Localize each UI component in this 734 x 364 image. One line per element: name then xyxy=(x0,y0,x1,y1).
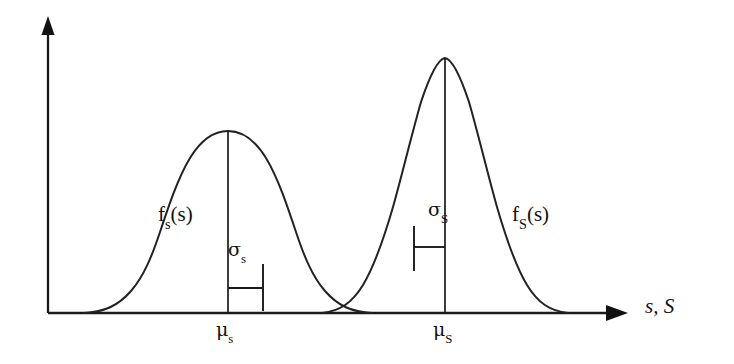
strength-curve-label-base: f xyxy=(158,202,165,226)
stress-strength-figure: fs(s) fS(s) σs σS μs μS s, S xyxy=(0,0,734,364)
y-axis-arrowhead-icon xyxy=(42,16,55,35)
strength-curve-group xyxy=(84,131,372,313)
mu-S-label: μS xyxy=(433,320,453,344)
mu-S-label-subscript: S xyxy=(445,331,452,346)
sigma-S-label-base: σ xyxy=(428,198,441,220)
x-axis-label: s, S xyxy=(645,296,674,317)
stress-curve-label-arg: (s) xyxy=(527,202,549,226)
strength-curve-label: fs(s) xyxy=(158,204,193,228)
strength-curve-label-subscript: s xyxy=(165,216,171,232)
stress-curve-group xyxy=(322,58,568,313)
x-axis-arrowhead-icon xyxy=(606,305,628,321)
x-axis-label-part1: s, xyxy=(645,294,658,318)
mu-s-label-base: μ xyxy=(216,318,228,340)
stress-curve-label-base: f xyxy=(512,202,519,226)
sigma-S-label-subscript: S xyxy=(441,211,448,226)
mu-S-label-base: μ xyxy=(433,318,445,340)
sigma-S-label: σS xyxy=(428,200,448,224)
x-axis-label-part2: S xyxy=(664,294,675,318)
sigma-s-label-base: σ xyxy=(228,238,241,260)
strength-curve-label-arg: (s) xyxy=(171,202,193,226)
stress-curve-label: fS(s) xyxy=(512,204,549,228)
mu-s-label: μs xyxy=(216,320,233,344)
mu-s-label-subscript: s xyxy=(228,331,233,346)
axis-group xyxy=(42,16,629,321)
sigma-s-label-subscript: s xyxy=(241,251,246,266)
sigma-s-label: σs xyxy=(228,240,246,264)
sigma-S-bar-group xyxy=(414,226,445,271)
sigma-s-bar-group xyxy=(228,264,263,311)
figure-canvas xyxy=(0,0,734,364)
stress-curve-label-subscript: S xyxy=(519,216,527,232)
